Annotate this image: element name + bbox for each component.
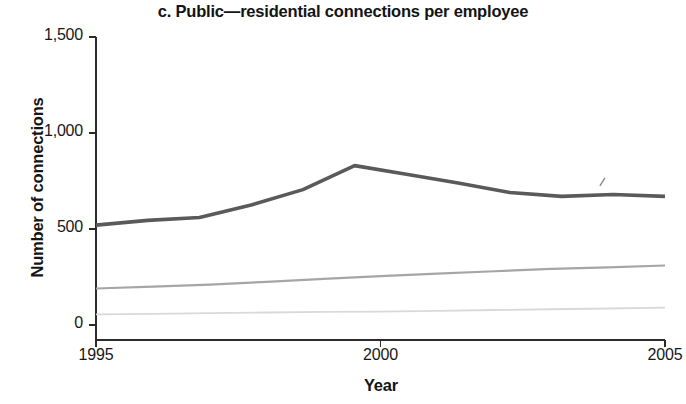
series-line-medium-gray-line [96,265,665,288]
chart-figure: c. Public—residential connections per em… [0,0,686,404]
series-line-light-gray-line [96,308,665,315]
plot-area [0,0,686,404]
series-line-dark-line [96,166,665,226]
scan-speck-icon [600,178,605,186]
scan-speck-mark [600,178,605,186]
data-series-group [96,166,665,315]
axis-lines [89,37,665,347]
